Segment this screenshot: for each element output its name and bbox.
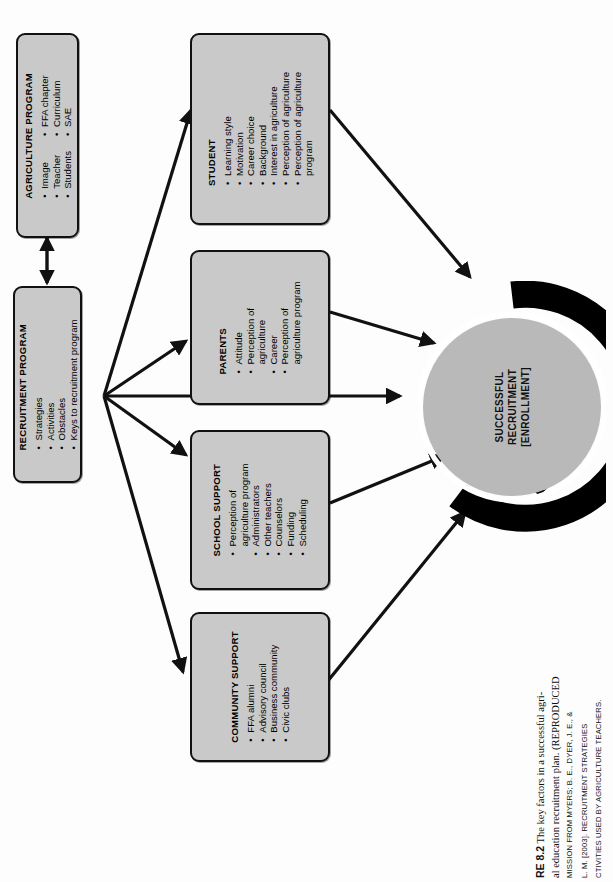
circle-label: SUCCESSFUL RECRUITMENT [ENROLLMENT] [493,367,532,447]
bullet-dot: • [38,132,50,135]
bullet-list: •Strategies •Activities •Obstacles •Keys… [32,319,78,450]
list-item: •Background [256,72,268,186]
bullet-dot: • [262,552,274,555]
list-item: •Counselors [274,463,286,556]
list-item: •Interest in agriculture [268,72,280,186]
bullet-dot: • [251,552,263,555]
list-item-label: Counselors [274,498,285,547]
box-parents-title: PARENTS [217,281,228,374]
list-item: •Career choice [245,72,257,186]
box-community-support-title: COMMUNITY SUPPORT [229,631,240,742]
box-school-support[interactable]: SCHOOL SUPPORT •Perception of agricultur… [190,430,330,590]
list-item-label: Obstacles [56,397,67,440]
successful-recruitment-node: SUCCESSFUL RECRUITMENT [ENROLLMENT] [418,281,606,533]
list-item-continuation: program [303,72,315,186]
ring-arc [458,294,607,518]
bullet-dot: • [280,370,292,373]
bullet-dot: • [38,194,50,197]
list-item-label: Motivation [233,132,244,176]
list-item-label: Scheduling [297,499,308,546]
list-item-label: Civic clubs [280,687,291,733]
bullet-list: •Perception of agriculture program •Admi… [227,463,308,556]
list-item-label: Career [268,335,279,364]
list-item-label: Administrators [251,485,262,546]
list-item-label: Perception of agriculture [280,72,291,176]
list-item-label: Perception of [227,490,238,547]
list-item: •Activities [44,319,56,450]
bullet-dot: • [61,132,73,135]
bullet-dot: • [274,552,286,555]
bullet-dot: • [280,182,292,185]
bullet-dot: • [297,552,309,555]
list-item-label: Business community [268,645,279,733]
list-item-label: Other teachers [262,483,273,546]
list-item: •Perception of [280,281,292,374]
box-student[interactable]: STUDENT •Learning style •Motivation •Car… [190,33,330,225]
bullet-dot: • [61,194,73,197]
list-item-label: Attitude [233,332,244,365]
list-item: •Perception of [245,281,257,374]
list-item: •Obstacles [56,319,68,450]
list-item-label: Students [61,150,72,188]
list-item-continuation: agriculture program [239,463,251,556]
list-item-label: Perception of [245,308,256,365]
list-item: •Perception of agriculture [280,72,292,186]
list-item: •Attitude [233,281,245,374]
box-agriculture-program-content: AGRICULTURE PROGRAM •Image •Teacher •Stu… [22,73,73,199]
arrow-recruitment-to-school [104,396,186,455]
list-item-label: SAE [61,107,72,126]
bullet-list: •Attitude •Perception of agriculture •Ca… [233,281,303,374]
box-recruitment-program-content: RECRUITMENT PROGRAM •Strategies •Activit… [16,319,78,450]
list-item: •Perception of [227,463,239,556]
list-item: •SAE [61,75,73,137]
box-recruitment-program[interactable]: RECRUITMENT PROGRAM •Strategies •Activit… [13,286,82,483]
list-item-label: agriculture program [239,463,250,546]
list-item-label: Funding [285,512,296,547]
list-item: •Image [38,150,50,198]
list-item-label: Perception of [280,308,291,365]
arrow-community-to-circle [327,512,465,682]
box-agriculture-program[interactable]: AGRICULTURE PROGRAM •Image •Teacher •Stu… [16,33,79,238]
list-item: •Perception of agriculture [291,72,303,186]
box-community-support-content: COMMUNITY SUPPORT •FFA alumni •Advisory … [229,631,291,742]
bullet-dot: • [268,370,280,373]
list-item-label: Keys to recruitment program [67,319,78,440]
bullet-dot: • [233,370,245,373]
caption-figure-number: RE 8.2 [534,846,546,878]
list-item-label: Interest in agriculture [268,86,279,176]
bullet-dot: • [285,552,297,555]
list-item: •FFA chapter [38,75,50,137]
list-item: •Other teachers [262,463,274,556]
circle-label-line-1: SUCCESSFUL [493,367,506,447]
list-item: •Keys to recruitment program [67,319,79,450]
list-item: •FFA alumni [245,631,257,742]
box-community-support[interactable]: COMMUNITY SUPPORT •FFA alumni •Advisory … [190,612,330,762]
list-item: •Administrators [251,463,263,556]
bullet-dot: • [227,552,239,555]
bullet-dot: • [291,182,303,185]
caption-title: The key factors in a successful agri- [535,692,546,844]
bullet-dot: • [50,194,62,197]
bullet-dot: • [67,446,79,449]
box-parents[interactable]: PARENTS •Attitude •Perception of agricul… [190,250,330,405]
list-item-label: FFA chapter [38,75,49,127]
list-item-label: Career choice [245,116,256,176]
list-item: •Strategies [32,319,44,450]
bullet-dot: • [56,446,68,449]
list-item-label: Learning style [222,116,233,176]
list-item-label: Teacher [50,154,61,188]
caption-line-4: L. M. [2003]. RECRUITMENT STRATEGIES [578,677,593,879]
list-item: •Students [61,150,73,198]
list-item-label: agriculture program [291,281,302,364]
list-item: •Motivation [233,72,245,186]
arrow-recruitment-to-student [104,110,191,396]
list-item: •Teacher [50,150,62,198]
box-parents-content: PARENTS •Attitude •Perception of agricul… [217,281,303,374]
bullet-dot: • [268,182,280,185]
caption-line-1: RE 8.2 The key factors in a successful a… [533,677,549,879]
list-item: •Funding [285,463,297,556]
list-item: •Civic clubs [280,631,292,742]
bullet-dot: • [32,446,44,449]
bullet-dot: • [44,446,56,449]
bullet-list: •FFA alumni •Advisory council •Business … [245,631,291,742]
